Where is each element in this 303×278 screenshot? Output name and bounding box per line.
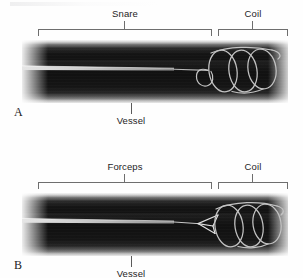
vessel-radiograph-b [22,193,288,256]
bracket-coil-a [218,29,288,36]
label-coil-b: Coil [218,161,288,172]
catheter-shaft-b [22,218,174,223]
device-layer-a [22,40,288,103]
bracket-forceps [38,182,212,189]
embolization-coil-b [212,202,284,249]
leader-vessel-b [131,256,132,267]
leader-vessel-a [131,103,132,114]
label-snare: Snare [38,8,212,19]
device-layer-b [22,193,288,256]
panel-a: Snare Coil [0,0,303,139]
label-vessel-a: Vessel [101,115,161,126]
label-forceps: Forceps [38,161,212,172]
bracket-snare [38,29,212,36]
panel-letter-b: B [14,258,22,273]
label-coil-a: Coil [218,8,288,19]
bracket-coil-b [218,182,288,189]
panel-letter-a: A [14,105,23,120]
label-vessel-b: Vessel [101,268,161,278]
panel-b: Forceps Coil [0,139,303,278]
catheter-shaft-a [22,66,174,71]
vessel-radiograph-a [22,40,288,103]
embolization-coil-a [206,47,280,94]
forceps-shaft-b [174,222,198,224]
figure-container: Snare Coil [0,0,303,278]
